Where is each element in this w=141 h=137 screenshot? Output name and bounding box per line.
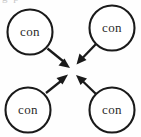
edge-line-top-right <box>83 44 96 58</box>
node-top-right[interactable]: con <box>90 6 135 51</box>
edge-bottom-left-to-center <box>46 75 68 94</box>
edge-line-top-left <box>48 49 64 62</box>
node-top-left[interactable]: con <box>8 10 53 55</box>
node-label-top-right: con <box>102 20 122 35</box>
node-bottom-right[interactable]: con <box>90 88 135 133</box>
node-label-bottom-left: con <box>18 102 38 117</box>
convergence-diagram: g p con con <box>0 0 141 137</box>
node-label-bottom-right: con <box>102 102 122 117</box>
edge-bottom-right-to-center <box>76 75 96 94</box>
edge-top-right-to-center <box>77 44 97 65</box>
edge-line-bottom-left <box>46 81 61 93</box>
edge-top-left-to-center <box>48 49 71 69</box>
edge-line-bottom-right <box>83 82 96 95</box>
diagram-canvas: con con con con <box>0 0 141 137</box>
node-label-top-left: con <box>20 24 40 39</box>
node-bottom-left[interactable]: con <box>6 88 51 133</box>
